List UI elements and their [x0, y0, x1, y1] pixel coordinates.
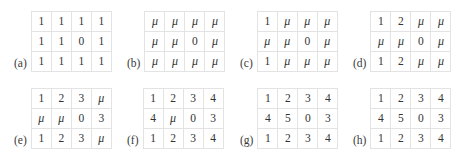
matrix-row: μμμμ: [145, 52, 225, 72]
matrix-cell: 4: [431, 129, 451, 149]
matrix-cell: 4: [318, 129, 338, 149]
matrix-cell: μ: [51, 109, 71, 129]
matrix-cell: μ: [317, 52, 337, 72]
panel-label-h: (h): [353, 135, 370, 150]
matrix-cell: μ: [91, 89, 111, 109]
matrix-cell: 2: [278, 89, 298, 109]
matrix-cell: 0: [297, 32, 317, 52]
matrix-cell: μ: [165, 12, 185, 32]
matrix-cell: μ: [431, 32, 451, 52]
matrix-e: 123μμμ03123μ: [31, 88, 112, 149]
matrix-cell: 2: [391, 129, 411, 149]
matrix-cell: 4: [371, 109, 391, 129]
matrix-row: 12μμ: [371, 12, 451, 32]
matrix-cell: 4: [258, 109, 278, 129]
matrix-cell: μ: [185, 52, 205, 72]
matrix-cell: 4: [431, 89, 451, 109]
matrix-cell: μ: [317, 12, 337, 32]
matrix-cell: 3: [318, 109, 338, 129]
matrix-c: 1μμμμμ0μ1μμμ: [257, 11, 338, 72]
matrix-row: μμ0μ: [145, 32, 225, 52]
matrix-cell: μ: [277, 12, 297, 32]
matrix-row: μμ0μ: [257, 32, 337, 52]
matrix-row: 1101: [31, 32, 111, 52]
matrix-cell: 2: [51, 89, 71, 109]
matrix-cell: 0: [71, 109, 91, 129]
panel-label-b: (b): [127, 58, 144, 73]
matrix-cell: μ: [185, 12, 205, 32]
panel-label-e: (e): [14, 135, 31, 150]
matrix-cell: μ: [297, 52, 317, 72]
matrix-cell: 0: [411, 32, 431, 52]
matrix-cell: μ: [165, 32, 185, 52]
matrix-cell: 3: [431, 109, 451, 129]
matrix-cell: 1: [71, 52, 91, 72]
matrix-row: 12μμ: [371, 52, 451, 72]
matrix-g: 123445031234: [257, 88, 338, 149]
matrix-row: 123μ: [31, 129, 111, 149]
matrix-cell: 1: [257, 12, 277, 32]
matrix-cell: 1: [91, 52, 111, 72]
matrix-h: 123445031234: [370, 88, 451, 149]
figure-grid-sequence: (a) 111111011111 (b) μμμμμμ0μμμμμ (c) 1μ…: [0, 0, 452, 160]
matrix-row: μμμμ: [145, 12, 225, 32]
matrix-cell: 2: [278, 129, 298, 149]
matrix-cell: 1: [31, 129, 51, 149]
matrix-row: 1234: [258, 129, 338, 149]
matrix-cell: 0: [298, 109, 318, 129]
matrix-cell: 1: [71, 12, 91, 32]
matrix-cell: 0: [183, 109, 203, 129]
matrix-cell: μ: [145, 32, 165, 52]
matrix-row: μμ03: [31, 109, 111, 129]
matrix-cell: 3: [183, 129, 203, 149]
matrix-cell: 0: [411, 109, 431, 129]
matrix-cell: μ: [145, 52, 165, 72]
matrix-cell: μ: [297, 12, 317, 32]
panel-e: (e) 123μμμ03123μ: [14, 88, 112, 149]
panel-label-g: (g): [240, 135, 257, 150]
matrix-cell: μ: [145, 12, 165, 32]
matrix-cell: 1: [371, 12, 391, 32]
matrix-cell: 2: [163, 129, 183, 149]
matrix-cell: μ: [205, 12, 225, 32]
matrix-cell: 3: [91, 109, 111, 129]
panel-b: (b) μμμμμμ0μμμμμ: [127, 11, 225, 72]
panel-d: (d) 12μμμμ0μ12μμ: [353, 11, 451, 72]
matrix-cell: 5: [278, 109, 298, 129]
matrix-cell: μ: [31, 109, 51, 129]
panel-label-c: (c): [240, 58, 257, 73]
matrix-row: 1234: [258, 89, 338, 109]
matrix-cell: 1: [257, 52, 277, 72]
panel-a: (a) 111111011111: [14, 11, 112, 72]
matrix-cell: μ: [391, 32, 411, 52]
matrix-cell: 3: [203, 109, 223, 129]
matrix-cell: 1: [91, 32, 111, 52]
matrix-cell: 1: [91, 12, 111, 32]
matrix-cell: 4: [143, 109, 163, 129]
matrix-cell: μ: [431, 52, 451, 72]
panel-h: (h) 123445031234: [353, 88, 451, 149]
matrix-cell: 0: [71, 32, 91, 52]
matrix-b: μμμμμμ0μμμμμ: [144, 11, 225, 72]
matrix-row: 123μ: [31, 89, 111, 109]
matrix-cell: 3: [183, 89, 203, 109]
matrix-cell: 1: [371, 129, 391, 149]
matrix-row: μμ0μ: [371, 32, 451, 52]
matrix-cell: 3: [71, 129, 91, 149]
matrix-cell: μ: [431, 12, 451, 32]
matrix-cell: 1: [143, 129, 163, 149]
matrix-cell: 2: [51, 129, 71, 149]
matrix-cell: 4: [203, 89, 223, 109]
matrix-row: 1111: [31, 12, 111, 32]
panel-c: (c) 1μμμμμ0μ1μμμ: [240, 11, 338, 72]
panel-label-f: (f): [127, 135, 143, 150]
matrix-cell: 1: [31, 12, 51, 32]
matrix-cell: 1: [51, 32, 71, 52]
matrix-cell: μ: [411, 52, 431, 72]
matrix-cell: 5: [391, 109, 411, 129]
matrix-cell: 3: [298, 89, 318, 109]
matrix-cell: μ: [257, 32, 277, 52]
matrix-cell: 2: [391, 12, 411, 32]
matrix-row: 4μ03: [143, 109, 223, 129]
matrix-cell: μ: [205, 32, 225, 52]
